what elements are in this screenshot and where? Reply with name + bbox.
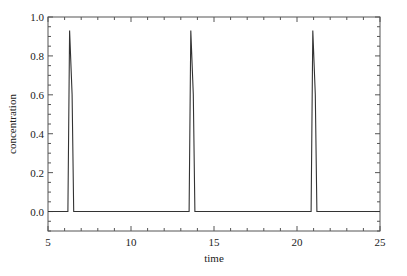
y-tick-label: 0.4 xyxy=(30,128,44,140)
plot-frame xyxy=(48,17,380,231)
y-tick-label: 0.0 xyxy=(30,206,44,218)
axis-ticks xyxy=(48,17,380,231)
y-tick-label: 0.2 xyxy=(30,167,44,179)
x-tick-label: 5 xyxy=(45,236,51,248)
y-tick-label: 1.0 xyxy=(30,11,44,23)
y-tick-label: 0.6 xyxy=(30,89,44,101)
y-tick-label: 0.8 xyxy=(30,50,44,62)
x-tick-label: 20 xyxy=(292,236,304,248)
x-tick-label: 10 xyxy=(126,236,138,248)
x-tick-label: 15 xyxy=(209,236,221,248)
x-tick-labels: 510152025 xyxy=(45,236,386,248)
x-tick-label: 25 xyxy=(375,236,387,248)
concentration-line xyxy=(48,31,380,212)
x-axis-label: time xyxy=(204,252,224,264)
y-axis-label: concentration xyxy=(6,94,18,154)
chart-canvas: 510152025 0.00.20.40.60.81.0 time concen… xyxy=(0,0,407,276)
y-tick-labels: 0.00.20.40.60.81.0 xyxy=(30,11,44,218)
